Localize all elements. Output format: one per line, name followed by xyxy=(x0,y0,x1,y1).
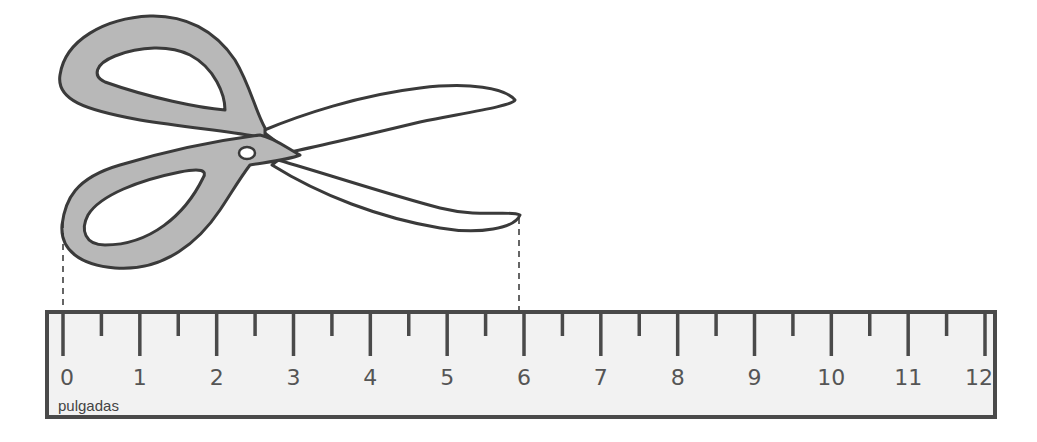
upper-blade xyxy=(262,86,515,152)
ruler-number-6: 6 xyxy=(517,367,531,389)
ruler-number-3: 3 xyxy=(287,367,301,389)
ruler-number-8: 8 xyxy=(671,367,685,389)
ruler-number-1: 1 xyxy=(133,367,147,389)
lower-blade xyxy=(272,160,520,231)
pivot-screw xyxy=(239,147,255,159)
ruler-unit-label: pulgadas xyxy=(58,398,119,413)
ruler-number-12: 12 xyxy=(965,367,993,389)
ruler-number-11: 11 xyxy=(894,367,922,389)
ruler-number-4: 4 xyxy=(363,367,377,389)
ruler-number-9: 9 xyxy=(748,367,762,389)
scissors-illustration xyxy=(60,16,520,268)
ruler-number-7: 7 xyxy=(594,367,608,389)
ruler-number-5: 5 xyxy=(440,367,454,389)
ruler-number-10: 10 xyxy=(817,367,845,389)
ruler-number-0: 0 xyxy=(60,367,74,389)
ruler-number-2: 2 xyxy=(210,367,224,389)
measurement-diagram: 0123456789101112 pulgadas xyxy=(0,0,1037,442)
